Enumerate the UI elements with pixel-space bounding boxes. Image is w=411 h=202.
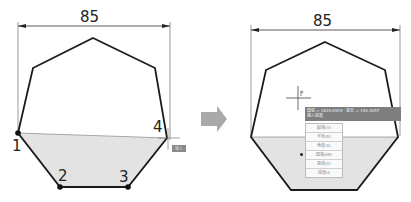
point-1[interactable] [15, 130, 21, 136]
menu-item-arc-end[interactable]: 圆端(AR) [306, 151, 342, 160]
tooltip-line-2: 输入弧度 [307, 113, 399, 118]
menu-item-label: 插值(I) [318, 170, 330, 175]
option-menu: 起端(O) 半径(R) 角度(A) 圆端(AR) 弧线(V) 插值(I) [305, 123, 343, 178]
point-4-label: 4 [153, 118, 163, 136]
menu-item-label: 圆端(AR) [316, 152, 333, 157]
menu-item-arc-line[interactable]: 弧线(V) [306, 160, 342, 169]
left-dimension-value: 85 [80, 8, 99, 26]
point-1-label: 1 [12, 137, 22, 155]
input-badge: 输入 [172, 145, 186, 152]
point-2[interactable] [57, 184, 63, 190]
left-shaded-region [18, 133, 167, 187]
selected-bullet-icon [300, 153, 303, 156]
menu-item-label: 起端(O) [317, 125, 331, 130]
point-3-label: 3 [119, 168, 129, 186]
right-dimension-value: 85 [313, 12, 332, 30]
menu-item-radius[interactable]: 半径(R) [306, 133, 342, 142]
point-2-label: 2 [58, 167, 68, 185]
menu-item-label: 半径(R) [317, 134, 331, 139]
menu-item-interpolate[interactable]: 插值(I) [306, 169, 342, 177]
left-dimension [18, 22, 170, 140]
arrow-right-icon [201, 106, 227, 132]
menu-item-label: 角度(A) [317, 143, 331, 148]
dynamic-input-tooltip: 圆弧 = 1819.0919 · 弧长 = 190.4057 输入弧度 [305, 107, 401, 121]
menu-item-start[interactable]: 起端(O) [306, 124, 342, 133]
menu-item-label: 弧线(V) [317, 161, 331, 166]
menu-item-angle[interactable]: 角度(A) [306, 142, 342, 151]
